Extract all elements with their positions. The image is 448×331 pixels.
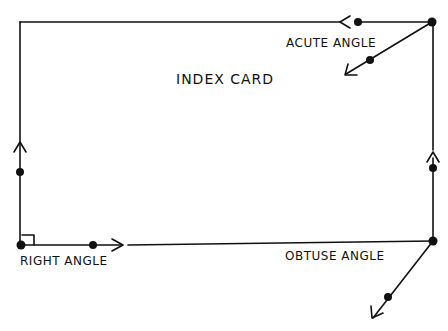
- card-bottom-edge: [128, 241, 433, 245]
- vertex-bottom-left-dot: [17, 241, 26, 250]
- obtuse-angle-label: OBTUSE ANGLE: [285, 249, 385, 263]
- right-angle-label: RIGHT ANGLE: [20, 254, 108, 268]
- arrow-left-icon: [340, 16, 350, 28]
- index-card-diagram: [0, 0, 448, 331]
- point-acute-diagonal-dot: [366, 56, 374, 64]
- point-bottom-edge-dot: [89, 241, 97, 249]
- point-left-edge-dot: [16, 168, 24, 176]
- vertex-top-right-dot: [428, 18, 437, 27]
- vertex-bottom-right-dot: [429, 237, 438, 246]
- acute-angle-label: ACUTE ANGLE: [286, 36, 376, 50]
- point-right-edge-dot: [429, 164, 437, 172]
- point-top-edge-dot: [354, 18, 362, 26]
- diagram-title: INDEX CARD: [176, 71, 274, 87]
- point-obtuse-diagonal-dot: [384, 293, 392, 301]
